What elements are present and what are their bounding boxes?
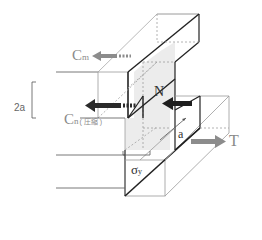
label-a: a <box>178 128 183 140</box>
t-arrow <box>191 135 226 148</box>
label-cn-note: ( 圧縮 ) <box>80 118 103 125</box>
label-sigma-y: σy <box>131 163 142 176</box>
label-2a: 2a <box>14 103 25 113</box>
label-cn: Cn( 圧縮 ) <box>64 112 102 127</box>
label-t: T <box>229 133 239 149</box>
two-a-bracket <box>32 82 36 118</box>
label-n: N <box>154 85 164 99</box>
label-cm: Cm <box>72 48 89 63</box>
cm-arrow <box>92 51 131 61</box>
